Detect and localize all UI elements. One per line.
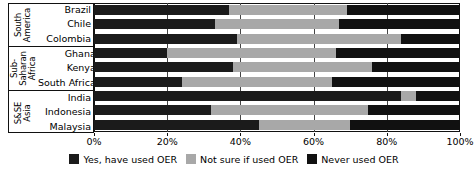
bar-segment-never xyxy=(368,105,460,115)
bar-segment-never xyxy=(332,77,460,87)
stacked-bar xyxy=(94,19,460,29)
stacked-bar xyxy=(94,91,460,101)
label-panel-border-left xyxy=(8,3,9,132)
x-axis-tick-label: 40% xyxy=(230,136,251,147)
category-group: S&SEAsiaIndiaIndonesiaMalaysia xyxy=(8,91,94,134)
legend-item-not_sure: Not sure if used OER xyxy=(186,154,298,165)
category-label: India xyxy=(38,93,94,103)
category-label: Indonesia xyxy=(38,107,94,117)
chart-legend: Yes, have used OERNot sure if used OERNe… xyxy=(0,152,468,166)
category-label: Brazil xyxy=(38,5,94,15)
bar-row xyxy=(94,75,460,89)
x-axis-tick-label: 80% xyxy=(376,136,397,147)
bar-segment-never xyxy=(372,62,460,72)
bar-segment-not_sure xyxy=(401,91,416,101)
x-axis-tick-label: 60% xyxy=(303,136,324,147)
stacked-bar xyxy=(94,48,460,58)
bar-rows xyxy=(94,3,460,132)
bar-segment-yes xyxy=(94,105,211,115)
category-label: Colombia xyxy=(38,34,94,44)
group-title: SouthAmerica xyxy=(8,3,38,46)
category-group: Sub-SaharanAfricaGhanaKenyaSouth Africa xyxy=(8,47,94,91)
legend-label: Not sure if used OER xyxy=(200,154,298,165)
category-group: SouthAmericaBrazilChileColombia xyxy=(8,3,94,47)
label-panel-border-bottom xyxy=(8,132,94,133)
category-label: Ghana xyxy=(38,49,99,59)
bar-row xyxy=(94,103,460,117)
bar-segment-not_sure xyxy=(167,48,335,58)
legend-item-yes: Yes, have used OER xyxy=(69,154,177,165)
bar-row xyxy=(94,32,460,46)
legend-swatch-never xyxy=(307,154,317,164)
bar-row xyxy=(94,118,460,132)
bar-segment-yes xyxy=(94,120,259,130)
bar-segment-yes xyxy=(94,77,182,87)
bar-segment-yes xyxy=(94,48,167,58)
stacked-bar xyxy=(94,62,460,72)
category-label: South Africa xyxy=(38,78,99,88)
x-axis-tick-label: 20% xyxy=(157,136,178,147)
legend-swatch-yes xyxy=(69,154,79,164)
category-label: Malaysia xyxy=(38,122,94,132)
bar-segment-not_sure xyxy=(215,19,339,29)
stacked-bar xyxy=(94,120,460,130)
bar-segment-yes xyxy=(94,34,237,44)
group-title: S&SEAsia xyxy=(8,91,38,134)
bar-segment-never xyxy=(336,48,460,58)
bar-segment-never xyxy=(416,91,460,101)
bar-row xyxy=(94,3,460,17)
x-axis-tick-label: 100% xyxy=(446,136,473,147)
legend-item-never: Never used OER xyxy=(307,154,398,165)
category-label: Chile xyxy=(38,19,94,29)
group-title: Sub-SaharanAfrica xyxy=(8,47,38,90)
bar-row xyxy=(94,17,460,31)
bar-segment-not_sure xyxy=(233,62,372,72)
bar-segment-never xyxy=(347,5,460,15)
legend-label: Never used OER xyxy=(321,154,398,165)
bar-segment-yes xyxy=(94,91,401,101)
bar-row xyxy=(94,60,460,74)
bar-segment-never xyxy=(401,34,460,44)
category-label: Kenya xyxy=(38,63,99,73)
x-axis-tick-label: 0% xyxy=(86,136,101,147)
category-label-panel: SouthAmericaBrazilChileColombiaSub-Sahar… xyxy=(8,3,94,132)
bar-segment-never xyxy=(350,120,460,130)
bar-segment-yes xyxy=(94,19,215,29)
bar-segment-yes xyxy=(94,62,233,72)
bar-segment-not_sure xyxy=(182,77,332,87)
stacked-bar xyxy=(94,5,460,15)
x-axis: 0%20%40%60%80%100% xyxy=(94,133,460,149)
bar-row xyxy=(94,46,460,60)
legend-swatch-not_sure xyxy=(186,154,196,164)
plot-area xyxy=(94,3,460,132)
label-panel-border-top xyxy=(8,3,94,4)
bar-segment-not_sure xyxy=(259,120,351,130)
bar-segment-yes xyxy=(94,5,229,15)
bar-segment-not_sure xyxy=(211,105,368,115)
bar-row xyxy=(94,89,460,103)
stacked-bar xyxy=(94,34,460,44)
bar-segment-not_sure xyxy=(229,5,346,15)
legend-label: Yes, have used OER xyxy=(83,154,177,165)
bar-segment-never xyxy=(339,19,460,29)
stacked-bar xyxy=(94,105,460,115)
bar-segment-not_sure xyxy=(237,34,402,44)
stacked-bar xyxy=(94,77,460,87)
